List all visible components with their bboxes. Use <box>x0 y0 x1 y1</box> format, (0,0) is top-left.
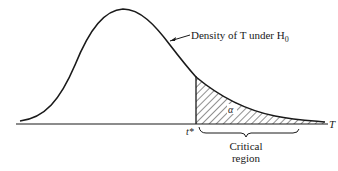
critical-region-label-line1: Critical <box>230 140 263 152</box>
critical-region-brace <box>199 127 299 137</box>
hypothesis-test-diagram: Density of T under H0 α T t* Critical re… <box>0 0 338 171</box>
alpha-label: α <box>228 104 234 115</box>
critical-region-shading <box>196 77 325 124</box>
tstar-label: t* <box>186 126 194 137</box>
axis-label: T <box>329 118 336 130</box>
critical-region-label-line2: region <box>232 152 261 164</box>
density-curve <box>20 9 325 122</box>
curve-label: Density of T under H0 <box>191 29 289 44</box>
